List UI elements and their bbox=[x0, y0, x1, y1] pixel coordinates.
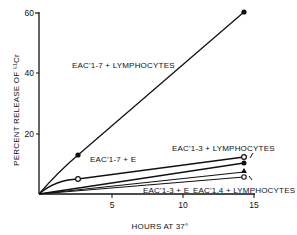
series-label-eac14-lymphocytes: EAC'1.4 + LYMPHOCYTES bbox=[193, 186, 295, 195]
x-tick-label-15: 15 bbox=[249, 200, 259, 210]
filled-circle-marker bbox=[241, 9, 246, 14]
series-label-eac17-lymphocytes: EAC'1-7 + LYMPHOCYTES bbox=[72, 61, 175, 70]
y-tick-label-40: 40 bbox=[25, 68, 35, 78]
pointer-mark bbox=[249, 176, 252, 180]
series-label-eac13-lymphocytes: EAC'1-3 + LYMPHOCYTES bbox=[172, 144, 275, 153]
y-tick-label-20: 20 bbox=[25, 129, 35, 139]
line-chart: 20 40 60 5 10 15 HOURS AT 37° PERCENT RE… bbox=[0, 0, 297, 235]
x-axis-title: HOURS AT 37° bbox=[132, 222, 189, 231]
open-circle-marker bbox=[242, 155, 247, 160]
x-tick-label-5: 5 bbox=[110, 200, 115, 210]
y-axis-title: PERCENT RELEASE OF ⁵¹Cr bbox=[12, 54, 21, 166]
series-label-eac13-e: EAC'1-3 + E bbox=[143, 186, 189, 195]
open-circle-marker bbox=[242, 175, 246, 179]
open-circle-marker bbox=[76, 177, 81, 182]
filled-triangle-marker bbox=[241, 168, 247, 173]
pointer-mark bbox=[250, 153, 253, 158]
filled-circle-marker bbox=[242, 161, 247, 166]
series-label-eac17-e: EAC'1-7 + E bbox=[90, 155, 136, 164]
x-tick-label-10: 10 bbox=[178, 200, 188, 210]
series-eac17-lymphocytes-line bbox=[39, 12, 244, 194]
y-tick-label-60: 60 bbox=[25, 8, 35, 18]
filled-circle-marker bbox=[75, 152, 80, 157]
